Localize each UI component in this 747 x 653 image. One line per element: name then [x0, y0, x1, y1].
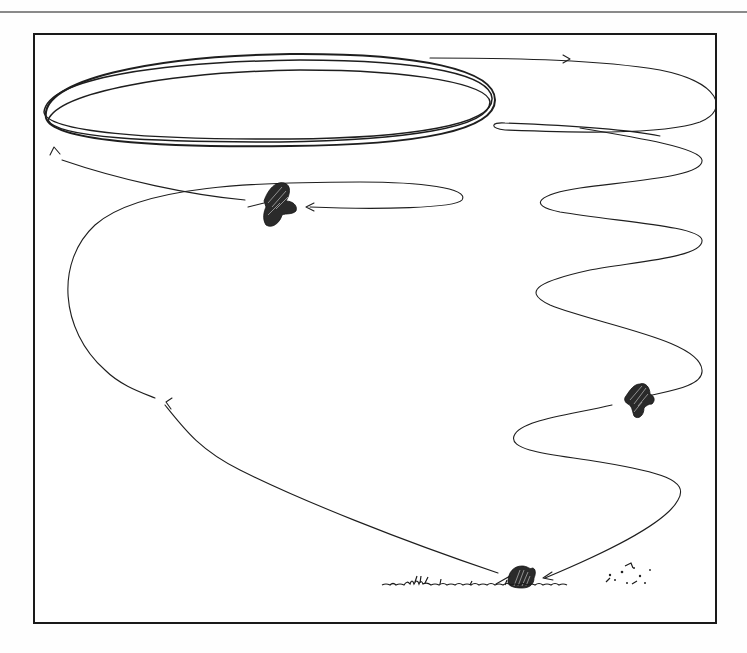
illustration-page — [0, 0, 747, 653]
ground-debris — [606, 563, 651, 584]
arrow-landing-icon — [543, 572, 553, 580]
direction-arrows — [50, 55, 570, 580]
flight-path-zigzag — [536, 128, 702, 398]
flight-path-lower — [514, 405, 681, 578]
arrow-up-icon — [50, 147, 60, 155]
flight-path-diagram — [0, 0, 747, 653]
high-orbit-loops — [44, 54, 495, 146]
flight-path-takeoff — [165, 405, 498, 573]
bird-ascending-icon — [625, 384, 654, 418]
arrow-right-icon — [563, 55, 570, 63]
bird-descending-icon — [248, 183, 296, 227]
flight-path-descent-return — [62, 160, 245, 200]
